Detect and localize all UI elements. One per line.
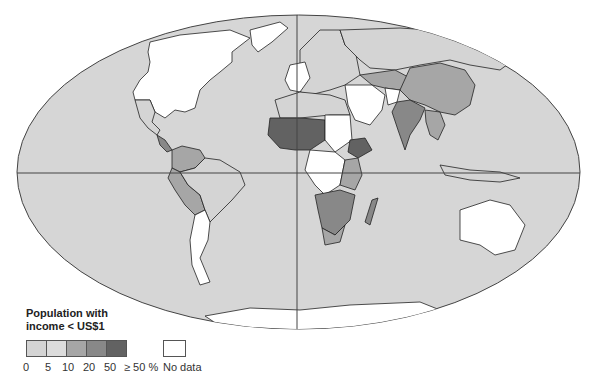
legend-swatch-50-plus [106,340,127,357]
legend-swatch-0-5 [26,340,47,357]
legend-swatches [26,340,126,357]
legend-tick-0: 0 [23,361,29,373]
legend-title-line1: Population with [26,307,108,320]
legend-swatch-20-50 [86,340,107,357]
legend-tick-50-plus: ≥ 50 % [124,361,158,373]
legend-no-data-label: No data [163,361,202,373]
russia [340,28,520,70]
legend-swatch-10-20 [66,340,87,357]
legend-tick-10: 10 [62,361,74,373]
legend-swatch-5-10 [46,340,67,357]
legend-tick-5: 5 [45,361,51,373]
legend-tick-50: 50 [104,361,116,373]
legend-title-line2: income < US$1 [26,320,108,333]
legend-title: Population with income < US$1 [26,307,108,333]
legend-tick-20: 20 [83,361,95,373]
legend-swatch-no-data [163,340,186,357]
